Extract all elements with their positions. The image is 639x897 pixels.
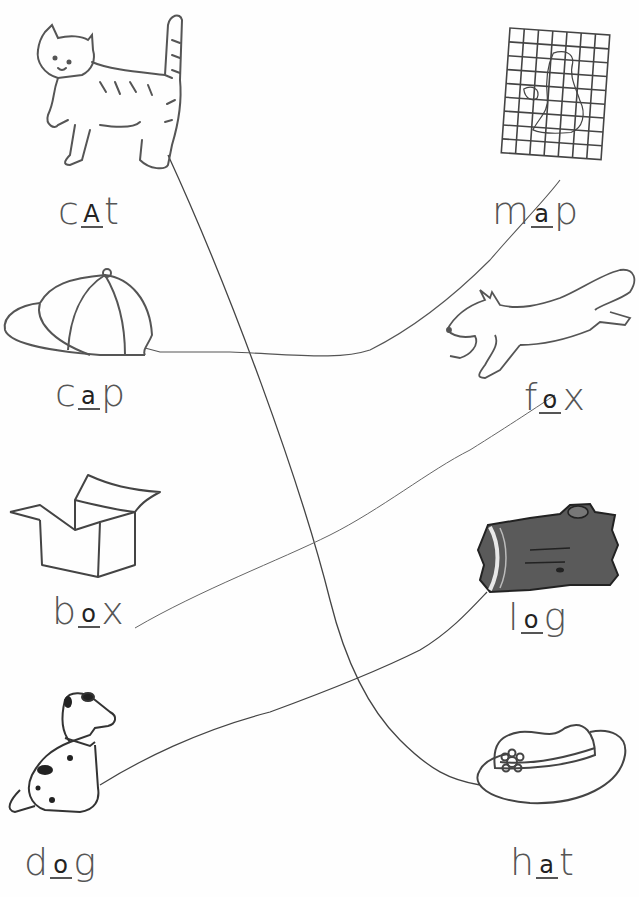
- word-suffix: t: [104, 189, 120, 233]
- word-suffix: p: [101, 371, 126, 415]
- handwritten-vowel: o: [543, 386, 559, 414]
- word-suffix: g: [73, 840, 97, 884]
- vowel-blank[interactable]: o: [77, 592, 101, 630]
- vowel-blank[interactable]: a: [530, 192, 554, 230]
- log-icon: [478, 504, 618, 592]
- handwritten-vowel: a: [534, 200, 550, 228]
- worksheet-page: cAt cap box dog map fox log hat: [0, 0, 639, 897]
- vowel-blank[interactable]: A: [80, 192, 104, 230]
- handwritten-vowel: o: [524, 606, 540, 634]
- word-suffix: x: [101, 589, 125, 633]
- vowel-blank[interactable]: o: [49, 843, 73, 881]
- word-suffix: t: [559, 840, 575, 884]
- word-cat: cAt: [58, 192, 120, 230]
- word-suffix: x: [562, 375, 586, 419]
- word-map: map: [492, 192, 579, 230]
- word-cap: cap: [55, 374, 126, 412]
- handwritten-vowel: a: [81, 382, 97, 410]
- vowel-blank[interactable]: a: [535, 843, 559, 881]
- handwritten-vowel: A: [83, 200, 100, 228]
- word-fox: fox: [524, 378, 586, 416]
- word-prefix: b: [52, 589, 77, 633]
- word-hat: hat: [510, 843, 575, 881]
- handwritten-vowel: o: [81, 600, 97, 628]
- vowel-blank[interactable]: o: [520, 598, 544, 636]
- word-prefix: f: [524, 375, 538, 419]
- pictures-layer: [0, 0, 639, 897]
- fox-icon: [447, 270, 634, 378]
- map-icon: [501, 28, 609, 160]
- word-prefix: m: [492, 189, 530, 233]
- word-dog: dog: [24, 843, 97, 881]
- word-prefix: c: [58, 189, 80, 233]
- word-log: log: [508, 598, 567, 636]
- sun-hat-icon: [477, 725, 625, 803]
- word-box: box: [52, 592, 125, 630]
- vowel-blank[interactable]: o: [538, 378, 562, 416]
- word-prefix: c: [55, 371, 77, 415]
- cat-icon: [38, 15, 182, 168]
- handwritten-vowel: o: [53, 851, 69, 879]
- word-prefix: l: [508, 595, 520, 639]
- word-suffix: p: [554, 189, 579, 233]
- word-suffix: g: [544, 595, 568, 639]
- word-prefix: h: [510, 840, 535, 884]
- handwritten-vowel: a: [539, 851, 555, 879]
- word-prefix: d: [24, 840, 49, 884]
- baseball-cap-icon: [5, 269, 152, 355]
- box-icon: [10, 475, 160, 577]
- dog-icon: [10, 693, 116, 812]
- vowel-blank[interactable]: a: [77, 374, 101, 412]
